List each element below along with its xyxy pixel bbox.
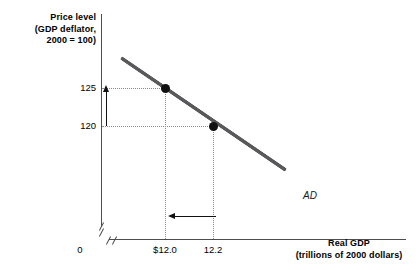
x-axis-tick-label-12-0: $12.0	[140, 244, 190, 255]
x-axis-title: Real GDP (trillions of 2000 dollars)	[283, 238, 415, 261]
x-axis-tick-label-12-2: 12.2	[192, 244, 234, 255]
data-point-12-2-120	[209, 122, 218, 131]
x-axis-title-line-2: (trillions of 2000 dollars)	[283, 250, 415, 262]
data-point-12-0-125	[161, 84, 170, 93]
real-gdp-decrease-arrow-shaft	[174, 216, 216, 217]
real-gdp-decrease-arrow-icon	[168, 213, 175, 219]
y-axis-tick-label-120: 120	[66, 120, 96, 131]
x-axis-break-mark	[112, 236, 117, 244]
y-axis-line	[101, 14, 102, 226]
price-level-increase-arrow-shaft	[106, 90, 107, 126]
aggregate-demand-curve-label: AD	[303, 190, 317, 201]
y-axis-title-line-2: (GDP deflator,	[8, 24, 96, 36]
y-axis-title: Price level (GDP deflator, 2000 = 100)	[8, 12, 96, 47]
y-axis-title-line-3: 2000 = 100)	[8, 35, 96, 47]
guide-line-vertical-12-2	[213, 126, 214, 239]
aggregate-demand-chart: Price level (GDP deflator, 2000 = 100) 1…	[0, 0, 419, 270]
aggregate-demand-curve	[120, 56, 287, 172]
x-axis-break-mark	[106, 236, 111, 244]
guide-line-vertical-12-0	[165, 88, 166, 239]
y-axis-tick-label-125: 125	[66, 82, 96, 93]
y-axis-title-line-1: Price level	[8, 12, 96, 24]
x-axis-origin-label: 0	[70, 244, 90, 255]
price-level-increase-arrow-icon	[103, 85, 109, 92]
guide-line-horizontal-125	[102, 88, 166, 89]
guide-line-horizontal-120	[102, 126, 214, 127]
x-axis-title-line-1: Real GDP	[283, 238, 415, 250]
